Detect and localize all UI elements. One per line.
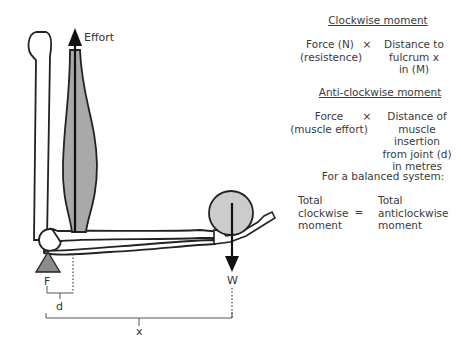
balanced-left-line: clockwise (298, 207, 358, 220)
anticlockwise-distance-line: muscle insertion (374, 123, 460, 148)
clockwise-force: Force (N) (resistence) (300, 38, 360, 63)
clockwise-operator: × (360, 38, 374, 51)
clockwise-force-line: (resistence) (300, 51, 360, 64)
clockwise-force-line: Force (N) (300, 38, 360, 51)
balanced-right-line: anticlockwise (378, 207, 458, 220)
clockwise-distance: Distance to fulcrum x in (M) (374, 38, 454, 76)
distance-x-bracket (46, 312, 232, 326)
balanced-left-line: moment (298, 219, 358, 232)
weight-label: W (227, 274, 238, 287)
anticlockwise-distance-line: Distance of (374, 110, 460, 123)
balanced-right-line: moment (378, 219, 458, 232)
balanced-operator: = (352, 206, 366, 219)
anticlockwise-operator: × (360, 110, 374, 123)
fulcrum-label: F (44, 275, 50, 288)
distance-d-bracket (47, 286, 73, 299)
ulna-bone (44, 240, 215, 255)
anticlockwise-distance: Distance of muscle insertion from joint … (374, 110, 460, 173)
anticlockwise-heading: Anti-clockwise moment (310, 86, 450, 99)
clockwise-heading: Clockwise moment (318, 14, 438, 27)
biceps-muscle (63, 50, 97, 232)
humerus-bone (28, 32, 51, 240)
distance-x-label: x (136, 325, 143, 338)
balanced-left-line: Total (298, 194, 358, 207)
anticlockwise-force-line: (muscle effort) (284, 123, 374, 136)
effort-label: Effort (84, 31, 114, 44)
effort-arrow-head (68, 28, 82, 46)
weight-arrow-head (225, 256, 239, 272)
anticlockwise-distance-line: from joint (d) (374, 148, 460, 161)
balanced-right: Total anticlockwise moment (378, 194, 458, 232)
clockwise-distance-line: in (M) (374, 63, 454, 76)
distance-d-label: d (56, 300, 63, 313)
balanced-heading: For a balanced system: (318, 170, 448, 183)
clockwise-distance-line: fulcrum x (374, 51, 454, 64)
balanced-left: Total clockwise moment (298, 194, 358, 232)
balanced-right-line: Total (378, 194, 458, 207)
clockwise-distance-line: Distance to (374, 38, 454, 51)
